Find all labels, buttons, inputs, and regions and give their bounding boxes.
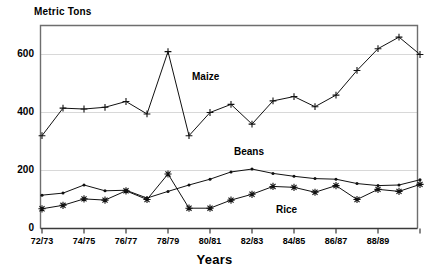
x-tick-label: 88/89 xyxy=(356,236,400,246)
point-rice-17 xyxy=(395,188,402,195)
x-tick-label: 80/81 xyxy=(188,236,232,246)
series-label-maize: Maize xyxy=(192,71,219,82)
y-tick-label: 600 xyxy=(2,48,34,59)
plot-area xyxy=(0,0,429,275)
x-tick-label: 84/85 xyxy=(272,236,316,246)
x-tick-label: 72/73 xyxy=(20,236,64,246)
x-tick-label: 82/83 xyxy=(230,236,274,246)
point-beans-0 xyxy=(41,194,44,197)
point-rice-11 xyxy=(269,183,276,190)
point-rice-7 xyxy=(185,205,192,212)
point-maize-2 xyxy=(81,106,88,113)
point-beans-1 xyxy=(62,192,65,195)
point-rice-9 xyxy=(227,196,234,203)
point-beans-8 xyxy=(209,178,212,181)
point-beans-15 xyxy=(356,182,359,185)
point-beans-9 xyxy=(230,170,233,173)
point-beans-14 xyxy=(335,178,338,181)
point-maize-5 xyxy=(144,111,151,118)
point-rice-2 xyxy=(80,195,87,202)
point-beans-6 xyxy=(167,190,170,193)
x-tick-label: 74/75 xyxy=(62,236,106,246)
point-rice-3 xyxy=(101,196,108,203)
point-beans-17 xyxy=(398,184,401,187)
line-chart: Metric Tons Years 0200400600 72/7374/757… xyxy=(0,0,429,275)
y-tick-label: 400 xyxy=(2,106,34,117)
x-tick-label: 86/87 xyxy=(314,236,358,246)
point-rice-16 xyxy=(374,186,381,193)
point-rice-5 xyxy=(143,196,150,203)
point-rice-15 xyxy=(353,196,360,203)
point-rice-1 xyxy=(59,202,66,209)
y-tick-label: 0 xyxy=(2,222,34,233)
point-beans-3 xyxy=(104,189,107,192)
point-rice-10 xyxy=(248,191,255,198)
series-label-rice: Rice xyxy=(276,204,297,215)
point-maize-3 xyxy=(102,104,109,111)
x-axis-title: Years xyxy=(0,252,429,267)
point-beans-7 xyxy=(188,184,191,187)
point-beans-12 xyxy=(293,175,296,178)
point-maize-12 xyxy=(291,93,298,100)
series-label-beans: Beans xyxy=(234,146,264,157)
point-beans-11 xyxy=(272,172,275,175)
point-maize-13 xyxy=(312,103,319,110)
gridlines xyxy=(41,55,418,171)
point-beans-2 xyxy=(83,184,86,187)
series-line-maize xyxy=(42,37,420,136)
series-group xyxy=(42,37,420,209)
point-maize-6 xyxy=(165,48,172,55)
marker-group xyxy=(38,34,423,213)
x-tick-label: 78/79 xyxy=(146,236,190,246)
point-rice-13 xyxy=(311,189,318,196)
point-rice-8 xyxy=(206,205,213,212)
point-rice-0 xyxy=(38,205,45,212)
point-rice-12 xyxy=(290,184,297,191)
point-rice-6 xyxy=(164,170,171,177)
x-tick-marks xyxy=(42,229,420,234)
point-rice-4 xyxy=(122,187,129,194)
point-rice-18 xyxy=(416,181,423,188)
point-beans-13 xyxy=(314,177,317,180)
point-beans-10 xyxy=(251,168,254,171)
y-tick-label: 200 xyxy=(2,164,34,175)
point-maize-4 xyxy=(123,98,130,105)
point-rice-14 xyxy=(332,182,339,189)
x-tick-label: 76/77 xyxy=(104,236,148,246)
